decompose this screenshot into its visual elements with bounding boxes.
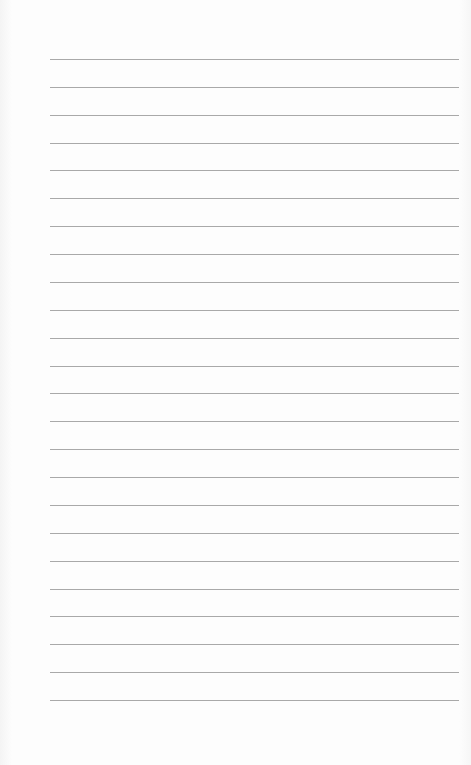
ruled-line bbox=[50, 59, 459, 60]
ruled-line bbox=[50, 310, 459, 311]
ruled-line bbox=[50, 477, 459, 478]
ruled-line bbox=[50, 115, 459, 116]
ruled-line bbox=[50, 616, 459, 617]
ruled-line bbox=[50, 449, 459, 450]
ruled-line bbox=[50, 644, 459, 645]
ruled-line bbox=[50, 393, 459, 394]
ruled-line bbox=[50, 589, 459, 590]
ruled-line bbox=[50, 561, 459, 562]
ruled-line bbox=[50, 338, 459, 339]
ruled-line bbox=[50, 505, 459, 506]
ruled-line bbox=[50, 672, 459, 673]
ruled-line bbox=[50, 143, 459, 144]
ruled-line bbox=[50, 282, 459, 283]
lined-paper-sheet bbox=[0, 0, 471, 765]
ruled-line bbox=[50, 87, 459, 88]
ruled-line bbox=[50, 533, 459, 534]
ruled-line bbox=[50, 226, 459, 227]
ruled-line bbox=[50, 700, 459, 701]
ruled-line bbox=[50, 198, 459, 199]
ruled-line bbox=[50, 366, 459, 367]
ruled-line bbox=[50, 170, 459, 171]
ruled-line bbox=[50, 254, 459, 255]
ruled-line bbox=[50, 421, 459, 422]
